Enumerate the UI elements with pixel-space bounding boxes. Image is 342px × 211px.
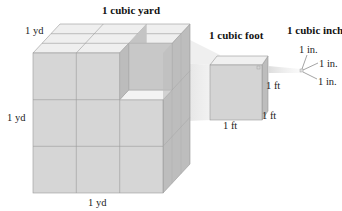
title-cubic-inch: 1 cubic inch — [287, 25, 342, 36]
cubic-inch-block — [300, 55, 318, 79]
foot-top-face — [210, 56, 268, 65]
projection-beam-foot-to-inch — [268, 66, 301, 73]
label-inch-top: 1 in. — [299, 45, 318, 56]
title-cubic-foot: 1 cubic foot — [209, 30, 263, 41]
cubic-yard-block — [33, 24, 190, 193]
label-foot-bottom: 1 ft — [223, 121, 237, 132]
label-yard-bottom: 1 yd — [88, 198, 106, 209]
label-inch-bottom: 1 in. — [318, 77, 337, 88]
label-foot-right: 1 ft — [266, 81, 280, 92]
title-cubic-yard: 1 cubic yard — [102, 5, 160, 16]
cubic-foot-block — [210, 56, 268, 120]
label-inch-middle: 1 in. — [319, 59, 338, 70]
units-of-volume-diagram: 1 cubic yard 1 cubic foot 1 cubic inch 1… — [0, 0, 342, 211]
foot-front-face — [210, 65, 262, 120]
label-foot-depth: 1 ft — [262, 111, 276, 122]
label-yard-top: 1 yd — [25, 26, 43, 37]
label-yard-left: 1 yd — [7, 113, 25, 124]
